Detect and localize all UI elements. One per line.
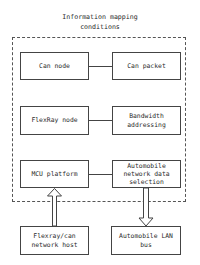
arrow-up-icon <box>48 189 62 227</box>
arrow-down-icon <box>139 188 153 226</box>
arrows-layer <box>0 0 200 265</box>
